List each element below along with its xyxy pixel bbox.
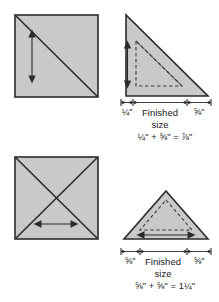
figure-square-single-diagonal xyxy=(15,15,98,97)
quilting-diagram: ¼" Finished size ⅝" ¼" + ⅝" = ⅞" ⅝" Fini… xyxy=(0,0,219,302)
dimension-bar-top xyxy=(121,99,211,106)
triangle-outline xyxy=(126,15,208,96)
figure-square-double-diagonal xyxy=(15,157,98,239)
figure-half-square-triangle xyxy=(121,15,211,106)
diagram-canvas xyxy=(0,0,219,302)
triangle-outline xyxy=(124,191,208,239)
figure-quarter-square-triangle xyxy=(121,191,211,255)
dimension-bar-bottom xyxy=(121,248,211,255)
